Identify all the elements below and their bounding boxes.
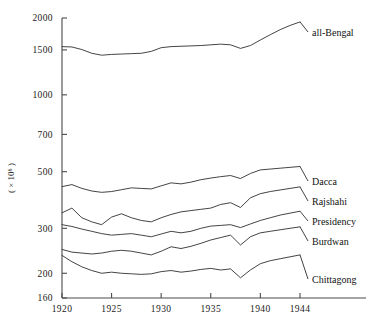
y-tick-label: 500: [38, 167, 53, 177]
series-line-burdwan: [62, 227, 300, 255]
x-axis: 192019251930193519401944: [52, 293, 366, 314]
y-axis-title: ( × 10⁶ ): [6, 163, 16, 193]
series-line-dacca: [62, 166, 300, 192]
y-tick-label: 1500: [32, 45, 53, 55]
leader-line-presidency: [300, 211, 308, 221]
y-tick-label: 1000: [32, 90, 53, 100]
y-tick-label: 200: [38, 269, 53, 279]
series-line-chittagong: [62, 255, 300, 278]
y-tick-label: 700: [38, 130, 53, 140]
population-line-chart: 160200300500700100015002000 ( × 10⁶ ) 19…: [0, 0, 378, 335]
x-tick-label: 1940: [250, 304, 271, 314]
series-label-chittagong: Chittagong: [312, 274, 356, 285]
series-label-presidency: Presidency: [312, 216, 356, 227]
y-axis-tick-labels: 160200300500700100015002000: [32, 13, 53, 303]
leader-line-all-bengal: [300, 22, 308, 32]
x-tick-label: 1935: [200, 304, 221, 314]
series-line-all-bengal: [62, 22, 300, 55]
x-tick-label: 1944: [290, 304, 311, 314]
leader-line-chittagong: [300, 255, 308, 279]
series-label-rajshahi: Rajshahi: [312, 196, 347, 207]
x-tick-label: 1930: [151, 304, 172, 314]
series-labels: all-BengalDaccaRajshahiPresidencyBurdwan…: [312, 27, 356, 285]
x-axis-ticks: [62, 293, 300, 298]
series-label-all-bengal: all-Bengal: [312, 27, 354, 38]
y-tick-label: 2000: [32, 13, 53, 23]
y-tick-label: 160: [38, 293, 53, 303]
y-tick-label: 300: [38, 224, 53, 234]
x-tick-label: 1925: [101, 304, 122, 314]
leader-line-dacca: [300, 167, 308, 182]
series-label-dacca: Dacca: [312, 176, 338, 187]
chart-container: 160200300500700100015002000 ( × 10⁶ ) 19…: [0, 0, 378, 335]
series-label-burdwan: Burdwan: [312, 236, 349, 247]
y-axis: 160200300500700100015002000 ( × 10⁶ ): [6, 13, 67, 303]
x-axis-tick-labels: 192019251930193519401944: [52, 304, 311, 314]
leader-line-burdwan: [300, 227, 308, 241]
series-leader-lines: [300, 22, 308, 279]
x-tick-label: 1920: [52, 304, 73, 314]
series-lines: [62, 22, 300, 278]
leader-line-rajshahi: [300, 187, 308, 201]
